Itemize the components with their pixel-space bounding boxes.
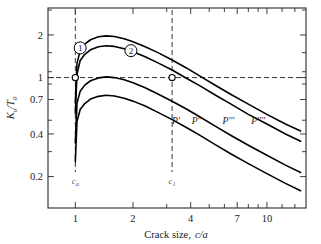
callout-1: 1 xyxy=(74,42,86,54)
marker-ca xyxy=(72,74,78,80)
y-tick-label: 0.7 xyxy=(30,94,43,105)
series-label-Pp: P' xyxy=(171,116,181,126)
series-label-Ppp: P'' xyxy=(191,116,203,126)
x-tick-label: 4 xyxy=(188,213,194,224)
svg-text:Crack size,c/a: Crack size,c/a xyxy=(144,229,207,240)
crack-size-chart: 210.70.40.2 124710 P''''P'''P''P' 12 cac… xyxy=(0,0,321,244)
marker-c1 xyxy=(169,74,175,80)
y-tick-label: 1 xyxy=(38,72,43,83)
x-axis-title: Crack size,c/a xyxy=(144,229,207,240)
figure-container: 210.70.40.2 124710 P''''P'''P''P' 12 cac… xyxy=(0,0,321,244)
x-tick-label: 7 xyxy=(235,213,240,224)
svg-text:2: 2 xyxy=(129,46,134,56)
series-label-Ppppp: P'''' xyxy=(250,116,266,126)
x-tick-label: 10 xyxy=(262,213,273,224)
x-tick-label: 2 xyxy=(130,213,135,224)
x-tick-label: 1 xyxy=(73,213,78,224)
y-tick-label: 0.4 xyxy=(30,129,44,140)
callout-2: 2 xyxy=(125,45,137,57)
series-label-Pppp: P''' xyxy=(222,116,236,126)
y-tick-label: 0.2 xyxy=(30,171,43,182)
y-tick-label: 2 xyxy=(38,30,43,41)
svg-text:1: 1 xyxy=(78,43,83,53)
